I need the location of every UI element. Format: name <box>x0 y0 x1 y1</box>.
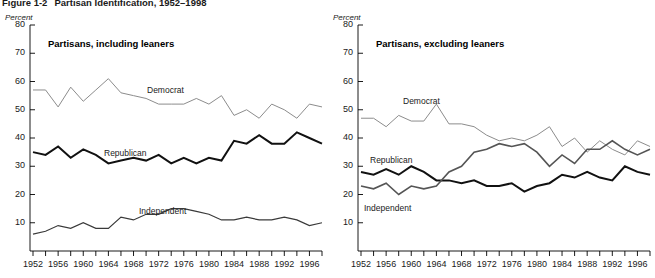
y-axis-tick-label: 40 <box>333 132 353 142</box>
series-label-democrat: Democrat <box>403 96 440 106</box>
x-axis-tick-label: 1996 <box>620 259 654 269</box>
series-label-democrat: Democrat <box>147 85 184 95</box>
series-line-republican <box>361 166 650 191</box>
y-axis-tick-label: 70 <box>333 47 353 57</box>
x-axis-tick-label: 1996 <box>292 259 326 269</box>
y-axis-tick-label: 10 <box>5 217 25 227</box>
chart-panel-including-leaners: Percent Partisans, including leaners Dem… <box>0 0 327 278</box>
y-axis-tick-label: 80 <box>5 19 25 29</box>
y-axis-tick-label: 70 <box>5 47 25 57</box>
series-line-republican <box>33 132 322 163</box>
y-axis-tick-label: 50 <box>333 104 353 114</box>
series-label-republican: Republican <box>370 155 413 165</box>
y-axis-tick-label: 30 <box>333 160 353 170</box>
chart-svg-left <box>0 0 327 278</box>
y-axis-tick-label: 60 <box>333 76 353 86</box>
y-axis-tick-label: 40 <box>5 132 25 142</box>
y-axis-tick-label: 20 <box>5 189 25 199</box>
y-axis-tick-label: 80 <box>333 19 353 29</box>
y-axis-tick-label: 50 <box>5 104 25 114</box>
series-label-independent: Independent <box>139 206 186 216</box>
series-line-independent <box>361 141 650 195</box>
series-label-independent: Independent <box>364 203 411 213</box>
y-axis-tick-label: 30 <box>5 160 25 170</box>
y-axis-tick-label: 60 <box>5 76 25 86</box>
y-axis-tick-label: 20 <box>333 189 353 199</box>
chart-svg-right <box>328 0 655 278</box>
series-line-democrat <box>361 104 650 155</box>
series-label-republican: Republican <box>104 148 147 158</box>
y-axis-tick-label: 10 <box>333 217 353 227</box>
chart-panel-excluding-leaners: Percent Partisans, excluding leaners Dem… <box>328 0 655 278</box>
